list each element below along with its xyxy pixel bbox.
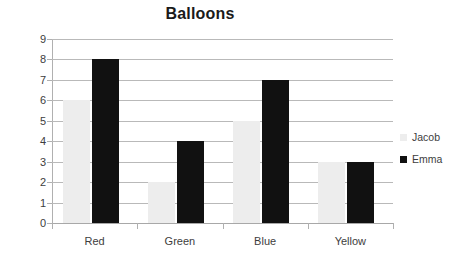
bar-jacob-green bbox=[148, 182, 175, 223]
legend-label-emma: Emma bbox=[412, 153, 442, 165]
legend-entry-jacob[interactable]: Jacob bbox=[400, 126, 472, 148]
y-axis-tickmarks bbox=[0, 39, 52, 223]
bar-jacob-red bbox=[63, 100, 90, 223]
bar-emma-blue bbox=[262, 80, 289, 223]
bar-chart: Balloons 0123456789 RedGreenBlueYellow J… bbox=[0, 0, 475, 261]
chart-title: Balloons bbox=[0, 5, 400, 23]
x-axis-tickmark bbox=[393, 223, 394, 229]
bar-emma-green bbox=[177, 141, 204, 223]
x-axis-label-green: Green bbox=[165, 235, 196, 247]
x-axis-label-red: Red bbox=[85, 235, 105, 247]
legend-label-jacob: Jacob bbox=[412, 131, 440, 143]
emma-swatch-icon bbox=[400, 156, 407, 163]
bar-emma-yellow bbox=[347, 162, 374, 223]
chart-legend: Jacob Emma bbox=[400, 126, 472, 170]
gridline bbox=[52, 39, 393, 40]
x-axis-tickmark bbox=[308, 223, 309, 229]
x-axis-tickmark bbox=[137, 223, 138, 229]
jacob-swatch-icon bbox=[400, 134, 407, 141]
bar-emma-red bbox=[92, 59, 119, 223]
x-axis-label-blue: Blue bbox=[254, 235, 276, 247]
bar-jacob-yellow bbox=[318, 162, 345, 223]
x-axis-tickmark bbox=[52, 223, 53, 229]
bar-jacob-blue bbox=[233, 121, 260, 223]
legend-entry-emma[interactable]: Emma bbox=[400, 148, 472, 170]
plot-area bbox=[52, 39, 393, 223]
x-axis-label-yellow: Yellow bbox=[335, 235, 366, 247]
x-axis-tickmark bbox=[223, 223, 224, 229]
